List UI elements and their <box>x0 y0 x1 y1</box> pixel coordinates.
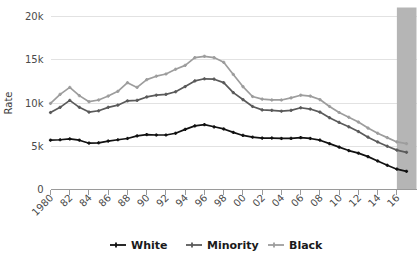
legend-label-white: White <box>131 239 167 252</box>
legend-item-white[interactable]: White <box>110 239 167 252</box>
x-tick-label-6: 92 <box>154 192 171 209</box>
legend-label-minority: Minority <box>207 239 259 252</box>
y-tick-label-0: 0 <box>37 184 43 195</box>
series-black <box>49 55 408 146</box>
x-tick-label-10: 00 <box>231 192 248 209</box>
series-line-white <box>51 125 407 172</box>
x-tick-label-12: 04 <box>270 192 287 209</box>
x-tick-label-1: 82 <box>58 192 75 209</box>
series-white <box>49 123 408 173</box>
x-tick-label-17: 14 <box>366 192 383 209</box>
y-axis-ticks: 05k10k15k20k <box>25 11 44 195</box>
x-tick-label-11: 02 <box>250 192 267 209</box>
legend-item-black[interactable]: Black <box>268 239 323 252</box>
y-axis-title: Rate <box>3 92 14 115</box>
x-tick-label-14: 08 <box>308 192 325 209</box>
legend-item-minority[interactable]: Minority <box>186 239 259 252</box>
x-tick-label-15: 10 <box>327 192 344 209</box>
data-series <box>49 55 408 173</box>
y-tick-label-4: 20k <box>25 11 44 22</box>
x-tick-label-16: 12 <box>347 192 364 209</box>
y-tick-label-3: 15k <box>25 54 44 65</box>
chart-legend: WhiteMinorityBlack <box>110 239 323 252</box>
x-tick-label-2: 84 <box>77 192 94 209</box>
x-tick-label-8: 96 <box>193 192 210 209</box>
x-tick-label-5: 90 <box>135 192 152 209</box>
y-tick-label-2: 10k <box>25 98 44 109</box>
x-axis-ticks: 1980828486889092949698000204060810121416 <box>30 190 402 218</box>
projection-band <box>397 8 417 190</box>
x-tick-label-13: 06 <box>289 192 306 209</box>
shaded-region <box>397 8 417 190</box>
x-tick-label-18: 16 <box>385 192 402 209</box>
x-tick-label-3: 86 <box>96 192 113 209</box>
y-axis-title-text: Rate <box>3 92 14 115</box>
line-chart: 1980828486889092949698000204060810121416… <box>0 0 417 263</box>
x-tick-label-4: 88 <box>116 192 133 209</box>
gridlines <box>51 17 417 190</box>
x-tick-label-7: 94 <box>173 192 190 209</box>
chart-canvas: 1980828486889092949698000204060810121416… <box>0 0 417 263</box>
x-tick-label-9: 98 <box>212 192 229 209</box>
x-tick-label-0: 1980 <box>30 192 56 218</box>
y-tick-label-1: 5k <box>31 141 43 152</box>
legend-label-black: Black <box>289 239 323 252</box>
